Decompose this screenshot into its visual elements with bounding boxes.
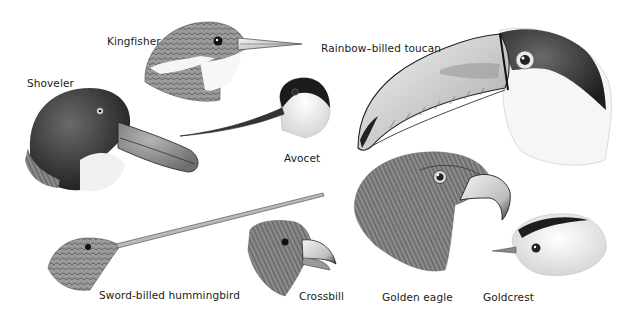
label-shoveler: Shoveler — [27, 77, 74, 89]
golden-eagle-head — [354, 152, 510, 271]
label-golden-eagle: Golden eagle — [382, 291, 453, 303]
label-goldcrest: Goldcrest — [483, 291, 534, 303]
goldcrest-head — [492, 214, 606, 276]
label-sword-billed-hummingbird: Sword-billed hummingbird — [99, 289, 240, 301]
shoveler-head — [25, 88, 198, 191]
crossbill-head — [248, 220, 336, 296]
label-rainbow-billed-toucan: Rainbow–billed toucan — [321, 42, 441, 54]
label-kingfisher: Kingfisher — [107, 35, 161, 47]
label-crossbill: Crossbill — [299, 290, 344, 302]
kingfisher-head — [145, 22, 302, 101]
bird-bills-illustration: Kingfisher Shoveler Avocet Rainbow–bille… — [0, 0, 631, 321]
label-avocet: Avocet — [284, 152, 320, 164]
